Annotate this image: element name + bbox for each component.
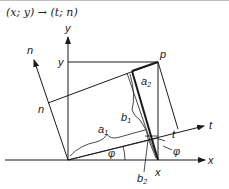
- n-axis-label: n: [27, 44, 33, 56]
- x-axis-label: x: [207, 154, 214, 166]
- point-p-label: p: [159, 48, 166, 60]
- t-projection-label: t: [172, 128, 176, 140]
- b2-label: b2: [137, 172, 147, 185]
- y-projection-label: y: [57, 56, 65, 68]
- angle-arc-x: [158, 139, 165, 141]
- n-projection-label: n: [38, 103, 44, 115]
- b1-label: b1: [121, 111, 131, 124]
- t-axis-label: t: [209, 119, 213, 131]
- x-projection-label: x: [154, 166, 161, 178]
- a1-label: a1: [98, 123, 108, 136]
- angle-leader: [163, 146, 172, 150]
- coordinate-transform-diagram: x y n t y x n t p a1 b1 a2 b2 φ φ: [0, 0, 229, 189]
- a2-segment: [132, 62, 158, 71]
- angle-phi-label: φ: [108, 147, 115, 159]
- t-projection-line: [158, 62, 178, 129]
- a2-label: a2: [141, 75, 151, 88]
- angle-arc-origin: [123, 146, 125, 160]
- y-axis-label: y: [64, 22, 72, 34]
- b2-leader: [144, 140, 148, 172]
- angle-phi-label-2: φ: [173, 145, 180, 157]
